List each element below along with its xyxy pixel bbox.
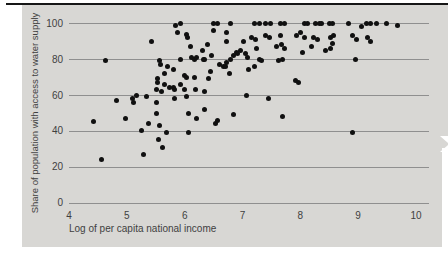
- x-tick-label: 10: [410, 211, 421, 221]
- data-point: [149, 39, 154, 44]
- data-point: [302, 35, 307, 40]
- data-point: [141, 152, 146, 157]
- data-point: [224, 39, 229, 44]
- data-point: [368, 21, 373, 26]
- data-point: [215, 21, 220, 26]
- data-point: [252, 64, 257, 69]
- x-tick-label: 9: [355, 211, 361, 221]
- data-point: [323, 48, 328, 53]
- data-point: [186, 111, 191, 116]
- data-point: [267, 35, 272, 40]
- data-point: [192, 75, 197, 80]
- data-point: [178, 21, 183, 26]
- data-point: [244, 93, 249, 98]
- data-point: [278, 33, 283, 38]
- data-point: [300, 50, 305, 55]
- data-point: [315, 37, 320, 42]
- x-tick-label: 7: [240, 211, 246, 221]
- data-point: [330, 41, 335, 46]
- data-point: [227, 71, 232, 76]
- plot-panel: [22, 5, 448, 247]
- data-point: [211, 28, 216, 33]
- data-point: [157, 123, 162, 128]
- data-point: [208, 69, 213, 74]
- data-point: [384, 21, 389, 26]
- data-point: [134, 93, 139, 98]
- y-axis-title: Share of population with access to water…: [29, 13, 40, 214]
- figure-scatter-plot: 020406080100 45678910 Share of populatio…: [0, 0, 448, 256]
- page-right-margin: [442, 148, 448, 256]
- figure-top-rule: [6, 3, 448, 5]
- data-point: [200, 48, 205, 53]
- data-point: [146, 121, 151, 126]
- data-point: [354, 37, 359, 42]
- data-point: [178, 82, 183, 87]
- data-point: [268, 21, 273, 26]
- gridline-y-0: [69, 203, 429, 204]
- x-tick-label: 8: [298, 211, 304, 221]
- data-point: [280, 57, 285, 62]
- data-point: [228, 21, 233, 26]
- data-point: [202, 57, 207, 62]
- data-point: [309, 44, 314, 49]
- gridline-y-40: [69, 131, 429, 132]
- data-point: [346, 21, 351, 26]
- data-point: [395, 23, 400, 28]
- data-point: [154, 111, 159, 116]
- data-point: [182, 87, 187, 92]
- data-point: [123, 116, 128, 121]
- x-tick-label: 5: [124, 211, 130, 221]
- data-point: [374, 21, 379, 26]
- x-axis-title: Log of per capita national income: [69, 223, 216, 234]
- data-point: [280, 114, 285, 119]
- data-point: [353, 57, 358, 62]
- data-point: [241, 39, 246, 44]
- data-point: [175, 30, 180, 35]
- page-bottom-margin: [0, 247, 448, 256]
- data-point: [238, 48, 243, 53]
- data-point: [160, 145, 165, 150]
- data-point: [282, 46, 287, 51]
- gridline-y-20: [69, 167, 429, 168]
- data-point: [282, 21, 287, 26]
- page-left-margin: [0, 0, 22, 256]
- data-point: [215, 118, 220, 123]
- data-point: [159, 89, 164, 94]
- x-tick-label: 4: [66, 211, 72, 221]
- data-point: [368, 39, 373, 44]
- data-point: [296, 80, 301, 85]
- x-tick-label: 6: [182, 211, 188, 221]
- data-point: [131, 100, 136, 105]
- data-point: [186, 130, 191, 135]
- data-point: [319, 21, 324, 26]
- data-point: [99, 157, 104, 162]
- data-point: [330, 21, 335, 26]
- data-point: [178, 57, 183, 62]
- data-point: [193, 87, 198, 92]
